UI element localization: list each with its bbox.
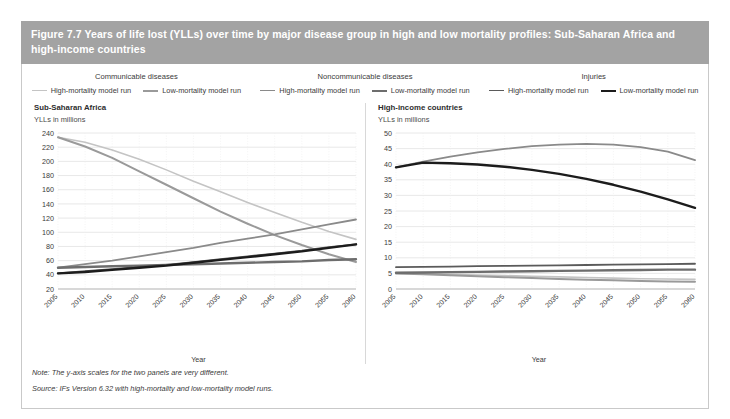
legend-item[interactable]: Low-mortality model run (601, 86, 699, 95)
x-axis-tick-label: 2055 (314, 293, 330, 309)
y-axis-tick-label: 5 (388, 269, 392, 278)
legend-item-label: High-mortality model run (279, 86, 360, 95)
x-axis-tick-label: 2010 (70, 293, 86, 309)
plot-area-right: 0510152025303540455020052010201520202025… (376, 127, 702, 335)
legend-item[interactable]: High-mortality model run (260, 86, 360, 95)
legend-item-label: Low-mortality model run (162, 86, 241, 95)
x-axis-tick-label: 2045 (598, 293, 614, 309)
series-line (396, 163, 695, 208)
legend-group-1: Noncommunicable diseasesHigh-mortality m… (251, 72, 480, 95)
x-axis-tick-label: 2020 (124, 293, 140, 309)
x-axis-tick-label: 2015 (97, 293, 113, 309)
x-axis-tick-label: 2030 (517, 293, 533, 309)
y-axis-tick-label: 25 (384, 207, 392, 216)
figure-title: Figure 7.7 Years of life lost (YLLs) ove… (31, 28, 675, 55)
panel-title-right: High-income countries (378, 103, 702, 112)
y-axis-tick-label: 80 (46, 242, 54, 251)
legend-item[interactable]: Low-mortality model run (372, 86, 470, 95)
legend-line-swatch-icon (601, 90, 616, 92)
y-axis-tick-label: 180 (42, 172, 54, 181)
legend-item-label: High-mortality model run (508, 86, 589, 95)
y-axis-tick-label: 240 (42, 129, 54, 138)
x-axis-tick-label: 2055 (653, 293, 669, 309)
figure-body: Communicable diseasesHigh-mortality mode… (21, 64, 709, 409)
line-chart-left: 2040608010012014016018020022024020052010… (32, 127, 362, 335)
x-axis-tick-label: 2005 (43, 293, 59, 309)
y-axis-tick-label: 0 (388, 285, 392, 294)
x-axis-tick-label: 2015 (435, 293, 451, 309)
y-axis-tick-label: 15 (384, 238, 392, 247)
panel-sub-saharan-africa: Sub-Saharan Africa YLLs in millions 2040… (28, 103, 365, 364)
y-axis-tick-label: 50 (384, 129, 392, 138)
x-axis-tick-label: 2040 (571, 293, 587, 309)
y-axis-tick-label: 10 (384, 254, 392, 263)
panel-ylabel-left: YLLs in millions (34, 115, 365, 124)
legend-group-title: Communicable diseases (95, 72, 178, 81)
series-line (396, 270, 695, 273)
y-axis-tick-label: 45 (384, 145, 392, 154)
legend-item[interactable]: High-mortality model run (489, 86, 589, 95)
y-axis-tick-label: 120 (42, 214, 54, 223)
y-axis-tick-label: 160 (42, 186, 54, 195)
y-axis-tick-label: 20 (384, 223, 392, 232)
legend-items: High-mortality model runLow-mortality mo… (32, 86, 241, 95)
y-axis-tick-label: 100 (42, 228, 54, 237)
legend-group-2: InjuriesHigh-mortality model runLow-mort… (479, 72, 708, 95)
line-chart-right: 0510152025303540455020052010201520202025… (376, 127, 701, 335)
x-axis-tick-label: 2030 (178, 293, 194, 309)
legend-line-swatch-icon (489, 90, 504, 91)
legend-item-label: Low-mortality model run (620, 86, 699, 95)
legend-line-swatch-icon (260, 90, 275, 91)
legend-item[interactable]: High-mortality model run (32, 86, 132, 95)
panel-ylabel-right: YLLs in millions (378, 115, 702, 124)
legend-group-title: Noncommunicable diseases (318, 72, 413, 81)
x-axis-tick-label: 2050 (287, 293, 303, 309)
y-axis-tick-label: 40 (46, 271, 54, 280)
legend-item[interactable]: Low-mortality model run (143, 86, 241, 95)
y-axis-tick-label: 30 (384, 191, 392, 200)
x-axis-tick-label: 2025 (151, 293, 167, 309)
x-axis-tick-label: 2045 (259, 293, 275, 309)
x-axis-tick-label: 2060 (341, 293, 357, 309)
series-line (58, 138, 356, 240)
legend-items: High-mortality model runLow-mortality mo… (489, 86, 698, 95)
series-line (58, 245, 356, 274)
legend-line-swatch-icon (372, 90, 387, 92)
legend-item-label: Low-mortality model run (391, 86, 470, 95)
xaxis-title-left: Year (32, 355, 365, 364)
legend-line-swatch-icon (32, 90, 47, 91)
x-axis-tick-label: 2050 (625, 293, 641, 309)
y-axis-tick-label: 35 (384, 176, 392, 185)
source-text: Source: IFs Version 6.32 with high-morta… (32, 384, 273, 393)
x-axis-tick-label: 2040 (232, 293, 248, 309)
figure-title-bar: Figure 7.7 Years of life lost (YLLs) ove… (21, 21, 709, 64)
x-axis-tick-label: 2020 (462, 293, 478, 309)
xaxis-title-right: Year (376, 355, 702, 364)
x-axis-tick-label: 2010 (408, 293, 424, 309)
series-line (396, 264, 695, 267)
x-axis-tick-label: 2060 (680, 293, 696, 309)
plot-area-left: 2040608010012014016018020022024020052010… (32, 127, 365, 335)
x-axis-tick-label: 2025 (489, 293, 505, 309)
panel-high-income-countries: High-income countries YLLs in millions 0… (365, 103, 702, 364)
panel-title-left: Sub-Saharan Africa (34, 103, 365, 112)
y-axis-tick-label: 140 (42, 200, 54, 209)
legend-group-title: Injuries (581, 72, 605, 81)
y-axis-tick-label: 20 (46, 285, 54, 294)
y-axis-tick-label: 40 (384, 160, 392, 169)
legend-items: High-mortality model runLow-mortality mo… (260, 86, 469, 95)
x-axis-tick-label: 2005 (381, 293, 397, 309)
legend-groups: Communicable diseasesHigh-mortality mode… (22, 72, 708, 95)
note-text: Note: The y-axis scales for the two pane… (32, 368, 273, 377)
legend-item-label: High-mortality model run (51, 86, 132, 95)
series-line (58, 138, 356, 263)
legend-group-0: Communicable diseasesHigh-mortality mode… (22, 72, 251, 95)
panels-row: Sub-Saharan Africa YLLs in millions 2040… (22, 103, 708, 364)
figure-container: Figure 7.7 Years of life lost (YLLs) ove… (21, 21, 709, 398)
x-axis-tick-label: 2035 (205, 293, 221, 309)
legend: Communicable diseasesHigh-mortality mode… (22, 64, 708, 95)
y-axis-tick-label: 200 (42, 157, 54, 166)
legend-line-swatch-icon (143, 90, 158, 92)
y-axis-tick-label: 220 (42, 143, 54, 152)
x-axis-tick-label: 2035 (544, 293, 560, 309)
